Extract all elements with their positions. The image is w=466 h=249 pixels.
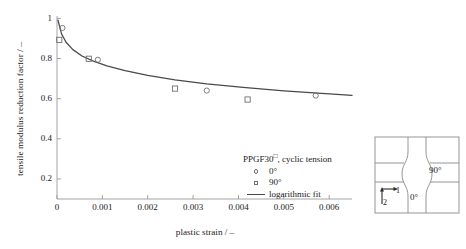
legend-label: 90° <box>269 177 282 188</box>
data-point-0deg <box>95 57 100 62</box>
legend-label: logarithmic fit <box>269 189 321 200</box>
specimen-inset: 90° 0° 1 2 <box>374 136 460 214</box>
data-point-0deg <box>204 88 209 93</box>
x-tick-label: 0.005 <box>261 203 307 212</box>
legend-title: PPGF30□, cyclic tension <box>243 150 332 165</box>
x-tick-label: 0.006 <box>306 203 352 212</box>
legend-item-90deg: 90° <box>243 177 332 188</box>
figure-container: 1 0.8 0.6 0.4 0.2 0 0.001 0.002 0.003 0.… <box>0 0 466 249</box>
data-point-0deg <box>60 25 65 30</box>
y-axis-title: tensile modulus reduction factor / – <box>15 11 25 207</box>
fit-curve <box>58 20 352 95</box>
inset-label-90deg: 90° <box>429 165 442 175</box>
line-sample-icon <box>243 194 269 195</box>
legend-title-rest: , cyclic tension <box>278 154 332 164</box>
x-tick-label: 0.001 <box>79 203 125 212</box>
data-point-90deg <box>172 86 177 91</box>
legend-item-0deg: 0° <box>243 166 332 177</box>
open-square-icon <box>243 181 269 186</box>
inset-axis-label-1: 1 <box>396 186 400 195</box>
legend-label: 0° <box>269 166 277 177</box>
x-axis-title: plastic strain / – <box>55 227 355 237</box>
legend-title-main: PPGF30 <box>243 154 274 164</box>
open-circle-icon <box>243 169 269 173</box>
data-point-0deg <box>313 93 318 98</box>
fit-curve-layer <box>58 20 352 95</box>
legend-item-fit: logarithmic fit <box>243 189 332 200</box>
x-tick-label: 0.002 <box>125 203 171 212</box>
data-point-90deg <box>245 97 250 102</box>
inset-label-0deg: 0° <box>410 192 418 202</box>
x-tick-label: 0.004 <box>216 203 262 212</box>
x-tick-label: 0 <box>34 203 80 212</box>
inset-axis-label-2: 2 <box>383 198 387 207</box>
legend: PPGF30□, cyclic tension 0° 90° logarithm… <box>243 150 332 200</box>
x-tick-label: 0.003 <box>170 203 216 212</box>
